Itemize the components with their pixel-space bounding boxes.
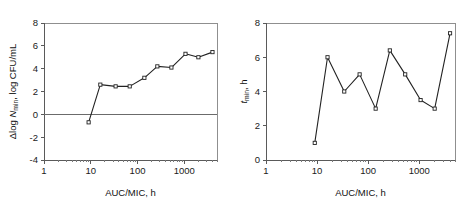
chart-right-series bbox=[313, 32, 451, 145]
chart-right-data-line bbox=[315, 33, 450, 143]
chart-left-yticklabel: 8 bbox=[33, 17, 38, 28]
chart-left-data-marker bbox=[156, 65, 159, 68]
chart-right-data-marker bbox=[419, 98, 422, 101]
chart-right-data-marker bbox=[448, 32, 451, 35]
chart-right-data-marker bbox=[326, 56, 329, 59]
chart-right-ticks bbox=[263, 23, 456, 164]
chart-right-frame bbox=[266, 23, 455, 160]
chart-right-xticklabel: 10 bbox=[312, 165, 323, 176]
chart-left-data-marker bbox=[99, 83, 102, 86]
chart-left-yticklabel: -2 bbox=[30, 132, 38, 143]
chart-left-data-marker bbox=[211, 51, 214, 54]
chart-left-yaxis-title: Δlog Nmin, log CFU/mL bbox=[7, 44, 19, 139]
chart-right-data-marker bbox=[313, 141, 316, 144]
chart-right-yticklabel: 2 bbox=[255, 120, 260, 131]
chart-right-yaxis-title-subscript: min bbox=[243, 90, 250, 101]
chart-right-data-marker bbox=[388, 49, 391, 52]
chart-left-data-marker bbox=[170, 66, 173, 69]
chart-left-data-marker bbox=[128, 85, 131, 88]
chart-left-yticklabel: 4 bbox=[33, 63, 38, 74]
chart-left-yticklabel: 0 bbox=[33, 109, 38, 120]
chart-panel-right: 024681101001000 AUC/MIC, htmin, h bbox=[233, 0, 466, 208]
chart-right-svg: 024681101001000 AUC/MIC, htmin, h bbox=[233, 0, 466, 208]
chart-left-yticklabel: -4 bbox=[30, 154, 38, 165]
chart-left-svg: -4-2024681101001000 AUC/MIC, hΔlog Nmin,… bbox=[0, 0, 233, 208]
chart-right-yticklabel: 4 bbox=[255, 86, 260, 97]
chart-right-data-marker bbox=[374, 107, 377, 110]
chart-left-series bbox=[87, 51, 214, 124]
chart-left-xticklabel: 1000 bbox=[174, 165, 195, 176]
chart-left-yticklabel: 6 bbox=[33, 40, 38, 51]
chart-right-xaxis-title: AUC/MIC, h bbox=[335, 187, 386, 198]
chart-left-xticklabel: 10 bbox=[85, 165, 96, 176]
chart-right-yticklabel: 6 bbox=[255, 52, 260, 63]
chart-left-data-marker bbox=[114, 85, 117, 88]
chart-left-data-marker bbox=[87, 121, 90, 124]
chart-left-yticklabel: 2 bbox=[33, 86, 38, 97]
chart-left-frame bbox=[44, 23, 217, 160]
chart-left-yaxis-title-suffix: , log CFU/mL bbox=[7, 44, 18, 100]
chart-right-frame-topright bbox=[266, 23, 455, 160]
chart-right-data-marker bbox=[404, 73, 407, 76]
chart-left-xaxis-title: AUC/MIC, h bbox=[105, 187, 156, 198]
chart-right-yaxis-title: tmin, h bbox=[238, 79, 250, 103]
chart-right-xticklabel: 1 bbox=[263, 165, 268, 176]
figure-container: -4-2024681101001000 AUC/MIC, hΔlog Nmin,… bbox=[0, 0, 466, 208]
chart-left-data-marker bbox=[143, 76, 146, 79]
chart-left-data-line bbox=[89, 52, 213, 122]
chart-right-axis-titles: AUC/MIC, htmin, h bbox=[238, 79, 386, 198]
chart-right-data-marker bbox=[358, 73, 361, 76]
chart-right-xticklabel: 100 bbox=[360, 165, 376, 176]
chart-right-xticklabel: 1000 bbox=[409, 165, 430, 176]
chart-left-data-marker bbox=[184, 52, 187, 55]
chart-right-ticklabels: 024681101001000 bbox=[255, 17, 430, 176]
chart-panel-left: -4-2024681101001000 AUC/MIC, hΔlog Nmin,… bbox=[0, 0, 233, 208]
chart-right-data-marker bbox=[343, 90, 346, 93]
chart-left-frame-topright bbox=[44, 23, 217, 160]
chart-right-data-marker bbox=[433, 107, 436, 110]
chart-left-yaxis-title-subscript: min bbox=[12, 100, 19, 111]
chart-right-yticklabel: 0 bbox=[255, 154, 260, 165]
chart-left-yaxis-title-prefix: Δlog bbox=[7, 118, 18, 140]
chart-right-yticklabel: 8 bbox=[255, 17, 260, 28]
chart-left-data-marker bbox=[197, 56, 200, 59]
chart-left-ticks bbox=[41, 23, 218, 164]
chart-left-xticklabel: 100 bbox=[130, 165, 146, 176]
chart-right-yaxis-title-suffix: , h bbox=[238, 79, 249, 90]
chart-left-ticklabels: -4-2024681101001000 bbox=[30, 17, 195, 176]
chart-left-xticklabel: 1 bbox=[41, 165, 46, 176]
